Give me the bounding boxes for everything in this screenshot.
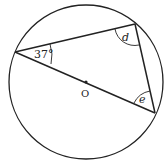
chord-ab — [15, 24, 135, 52]
angle-label-37: 37° — [34, 48, 54, 61]
angle-label-e: e — [139, 93, 146, 106]
angle-label-d: d — [122, 31, 129, 44]
diagram-canvas: 37° d e O — [0, 0, 167, 164]
center-label: O — [81, 88, 89, 99]
center-point — [84, 80, 87, 83]
geometry-diagram: 37° d e O — [0, 0, 167, 164]
